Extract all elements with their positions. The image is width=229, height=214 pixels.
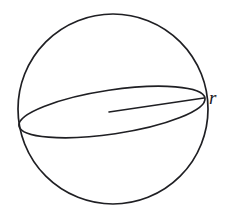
- radius-line-icon: [109, 98, 204, 112]
- sphere-diagram-canvas: [0, 0, 229, 214]
- sphere-outline-icon: [18, 14, 208, 204]
- sphere-diagram: r: [0, 0, 229, 214]
- radius-label: r: [209, 88, 216, 107]
